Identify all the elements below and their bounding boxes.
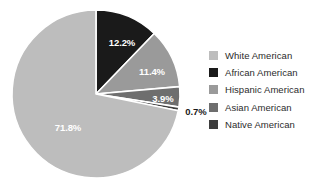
legend-item[interactable]: White American — [209, 49, 329, 62]
legend-item[interactable]: African American — [209, 66, 329, 79]
pie-chart-plot-area: 12.2%11.4%3.9%0.7%71.8% — [0, 0, 200, 189]
pie-slice-group — [12, 10, 180, 178]
pie-chart-figure: 12.2%11.4%3.9%0.7%71.8% White AmericanAf… — [0, 0, 332, 189]
legend-item[interactable]: Native American — [209, 118, 329, 131]
legend-swatch-icon — [209, 120, 218, 129]
legend-swatch-icon — [209, 51, 218, 60]
legend-swatch-icon — [209, 85, 218, 94]
legend-item-label: Native American — [225, 119, 295, 130]
legend-item-label: Asian American — [225, 102, 292, 113]
legend-item-label: White American — [225, 50, 292, 61]
legend-swatch-icon — [209, 68, 218, 77]
legend-item[interactable]: Asian American — [209, 101, 329, 114]
pie-svg — [0, 0, 200, 189]
chart-legend: White AmericanAfrican AmericanHispanic A… — [209, 49, 329, 131]
legend-item-label: African American — [225, 67, 298, 78]
legend-swatch-icon — [209, 103, 218, 112]
legend-item-label: Hispanic American — [225, 84, 305, 95]
legend-item[interactable]: Hispanic American — [209, 83, 329, 96]
